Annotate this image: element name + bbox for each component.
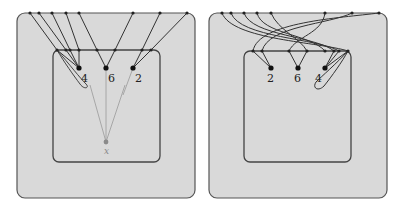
right-node-2 [268,65,273,70]
left-node-2 [130,65,135,70]
left-root-label: x [104,146,109,156]
right-node-label-6: 6 [294,72,301,85]
left-node-6 [103,65,108,70]
left-panel: 4 6 2 x [17,11,195,198]
right-node-4 [322,65,327,70]
left-node-label-6: 6 [108,72,115,85]
right-panel: 2 6 4 [209,11,387,198]
left-node-4 [76,65,81,70]
left-root-node [104,140,109,145]
left-node-label-4: 4 [81,72,88,85]
right-node-6 [295,65,300,70]
left-node-label-2: 2 [135,72,142,85]
diagram-canvas: 4 6 2 x [0,0,403,211]
right-node-label-4: 4 [315,72,322,85]
right-node-label-2: 2 [267,72,274,85]
